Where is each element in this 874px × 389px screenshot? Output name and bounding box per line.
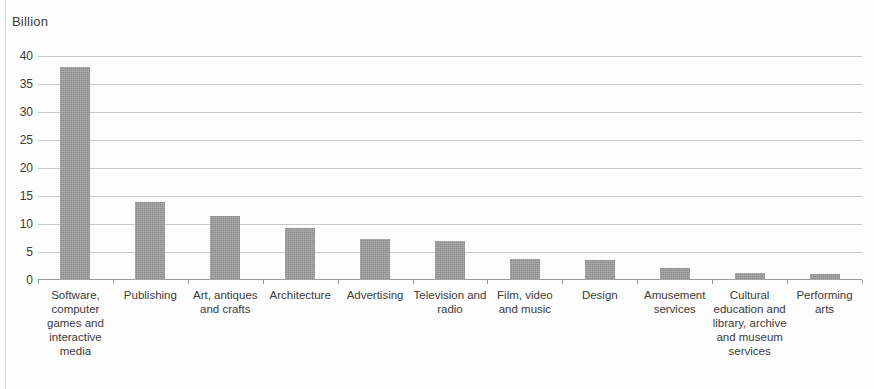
bar-chart: Billion 4035302520151050 Software, compu… bbox=[0, 0, 874, 389]
x-axis-tick bbox=[487, 280, 488, 284]
bar[interactable] bbox=[510, 259, 540, 280]
y-axis-tick-label: 15 bbox=[3, 189, 33, 203]
x-axis-category-label: Architecture bbox=[263, 288, 338, 302]
x-axis-category-label: Advertising bbox=[338, 288, 413, 302]
x-axis-category-label: Television and radio bbox=[413, 288, 488, 316]
bar-slot bbox=[712, 56, 787, 280]
x-axis-tick bbox=[188, 280, 189, 284]
plot-area bbox=[38, 56, 862, 280]
bar[interactable] bbox=[585, 260, 615, 280]
y-axis-tick-label: 5 bbox=[3, 245, 33, 259]
bar-slot bbox=[338, 56, 413, 280]
x-axis-tick bbox=[787, 280, 788, 284]
y-axis-tick-label: 25 bbox=[3, 133, 33, 147]
x-axis-category-label: Amusement services bbox=[637, 288, 712, 316]
x-axis-category-label: Film, video and music bbox=[487, 288, 562, 316]
bar-slot bbox=[188, 56, 263, 280]
bar-slot bbox=[487, 56, 562, 280]
bar[interactable] bbox=[135, 202, 165, 280]
bar[interactable] bbox=[660, 268, 690, 280]
y-axis-tick-label: 35 bbox=[3, 77, 33, 91]
bar[interactable] bbox=[360, 239, 390, 280]
bar[interactable] bbox=[60, 67, 90, 280]
bar-slot bbox=[113, 56, 188, 280]
x-axis-category-label: Software, computer games and interactive… bbox=[38, 288, 113, 358]
y-axis-unit-label: Billion bbox=[12, 14, 48, 29]
y-axis-tick-label: 30 bbox=[3, 105, 33, 119]
y-axis-tick-label: 0 bbox=[3, 273, 33, 287]
x-axis-tick bbox=[562, 280, 563, 284]
x-axis-category-labels: Software, computer games and interactive… bbox=[38, 288, 862, 386]
x-axis-tick bbox=[712, 280, 713, 284]
x-axis-tick bbox=[862, 280, 863, 284]
y-axis-tick-labels: 4035302520151050 bbox=[0, 56, 33, 280]
x-axis-tick bbox=[113, 280, 114, 284]
x-axis-category-label: Performing arts bbox=[787, 288, 862, 316]
y-axis-tick-label: 20 bbox=[3, 161, 33, 175]
x-axis-tick bbox=[263, 280, 264, 284]
x-axis-category-label: Art, antiques and crafts bbox=[188, 288, 263, 316]
x-axis-tick bbox=[637, 280, 638, 284]
bar-slot bbox=[263, 56, 338, 280]
bar[interactable] bbox=[210, 216, 240, 280]
bar-slot bbox=[637, 56, 712, 280]
y-axis-tick-label: 10 bbox=[3, 217, 33, 231]
x-axis-category-label: Publishing bbox=[113, 288, 188, 302]
bar-slot bbox=[562, 56, 637, 280]
bar[interactable] bbox=[435, 241, 465, 280]
x-axis-category-label: Design bbox=[562, 288, 637, 302]
bar[interactable] bbox=[285, 228, 315, 280]
bar[interactable] bbox=[810, 274, 840, 280]
x-axis-tick bbox=[413, 280, 414, 284]
x-axis-category-label: Cultural education and library, archive … bbox=[712, 288, 787, 358]
bar[interactable] bbox=[735, 273, 765, 280]
y-axis-tick-label: 40 bbox=[3, 49, 33, 63]
x-axis-tick bbox=[38, 280, 39, 284]
bar-slot bbox=[413, 56, 488, 280]
bar-slot bbox=[787, 56, 862, 280]
x-axis-tick bbox=[338, 280, 339, 284]
bar-slot bbox=[38, 56, 113, 280]
